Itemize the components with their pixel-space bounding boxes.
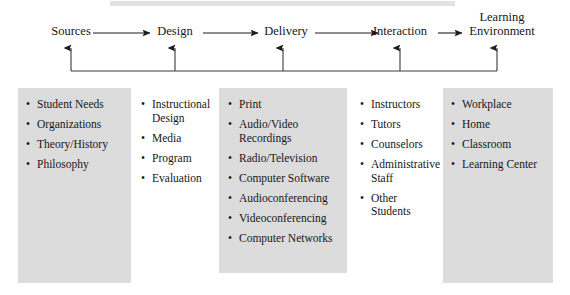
column-learning-environment-list: •Workplace •Home •Classroom •Learning Ce… (443, 88, 553, 172)
list-item-label: Other Students (371, 192, 411, 218)
list-item: •Theory/History (26, 138, 127, 152)
bullet-icon: • (141, 152, 145, 166)
bullet-icon: • (228, 98, 232, 112)
list-item: •Workplace (451, 98, 549, 112)
column-design-list: •Instructional Design •Media •Program •E… (133, 88, 211, 185)
column-sources-list: •Student Needs •Organizations •Theory/Hi… (18, 88, 131, 172)
list-item: •Tutors (360, 118, 438, 132)
stage-label-sources: Sources (26, 25, 116, 39)
list-item: •Student Needs (26, 98, 127, 112)
bullet-icon: • (451, 118, 455, 132)
column-interaction-list: •Instructors •Tutors •Counselors •Admini… (352, 88, 440, 219)
list-item: •Audioconferencing (228, 192, 343, 206)
list-item-label: Audio/Video Recordings (239, 118, 298, 144)
list-item: •Classroom (451, 138, 549, 152)
column-sources: •Student Needs •Organizations •Theory/Hi… (18, 88, 131, 283)
bullet-icon: • (26, 118, 30, 132)
list-item-label: Print (239, 98, 261, 110)
bullet-icon: • (26, 158, 30, 172)
list-item-label: Theory/History (37, 138, 108, 150)
list-item: •Radio/Television (228, 152, 343, 166)
list-item-label: Home (462, 118, 490, 130)
list-item: •Media (141, 132, 209, 146)
list-item: •Computer Software (228, 172, 343, 186)
bullet-icon: • (360, 138, 364, 152)
list-item: •Print (228, 98, 343, 112)
list-item: •Other Students (360, 192, 438, 219)
stage-label-interaction: Interaction (355, 25, 445, 39)
bullet-icon: • (228, 152, 232, 166)
list-item-label: Evaluation (152, 172, 202, 184)
list-item-label: Computer Networks (239, 232, 333, 244)
list-item: •Instructors (360, 98, 438, 112)
bullet-icon: • (141, 172, 145, 186)
bullet-icon: • (451, 138, 455, 152)
feedback-loop (71, 48, 497, 71)
bullet-icon: • (360, 98, 364, 112)
stage-label-delivery: Delivery (241, 25, 331, 39)
list-item: •Audio/Video Recordings (228, 118, 343, 145)
column-design: •Instructional Design •Media •Program •E… (133, 88, 211, 283)
column-interaction: •Instructors •Tutors •Counselors •Admini… (352, 88, 440, 273)
bullet-icon: • (451, 158, 455, 172)
list-item: •Organizations (26, 118, 127, 132)
bullet-icon: • (360, 158, 364, 172)
list-item-label: Organizations (37, 118, 101, 130)
bullet-icon: • (228, 192, 232, 206)
bullet-icon: • (360, 118, 364, 132)
learning-environment-line-1: Learning (479, 10, 524, 24)
list-item-label: Computer Software (239, 172, 329, 184)
list-item-label: Learning Center (462, 158, 537, 170)
list-item-label: Audioconferencing (239, 192, 328, 204)
bullet-icon: • (228, 172, 232, 186)
stage-label-design: Design (130, 25, 220, 39)
bullet-icon: • (228, 212, 232, 226)
list-item-label: Student Needs (37, 98, 104, 110)
bullet-icon: • (141, 132, 145, 146)
list-item: •Home (451, 118, 549, 132)
flow-diagram: Sources Design Delivery Interaction Lear… (0, 0, 570, 295)
list-item-label: Instructional Design (152, 98, 210, 124)
list-item-label: Instructors (371, 98, 420, 110)
list-item: •Counselors (360, 138, 438, 152)
list-item: •Computer Networks (228, 232, 343, 246)
column-delivery: •Print •Audio/Video Recordings •Radio/Te… (219, 88, 347, 273)
bullet-icon: • (451, 98, 455, 112)
bullet-icon: • (26, 98, 30, 112)
learning-environment-line-2: Environment (469, 24, 534, 38)
column-learning-environment: •Workplace •Home •Classroom •Learning Ce… (443, 88, 553, 283)
stage-label-learning-environment: Learning Environment (457, 11, 547, 38)
list-item: •Program (141, 152, 209, 166)
list-item: •Videoconferencing (228, 212, 343, 226)
list-item-label: Program (152, 152, 192, 164)
list-item: •Instructional Design (141, 98, 209, 125)
bullet-icon: • (228, 118, 232, 132)
column-delivery-list: •Print •Audio/Video Recordings •Radio/Te… (219, 88, 347, 245)
bullet-icon: • (26, 138, 30, 152)
list-item-label: Counselors (371, 138, 423, 150)
list-item-label: Workplace (462, 98, 512, 110)
bullet-icon: • (228, 232, 232, 246)
list-item-label: Videoconferencing (239, 212, 326, 224)
list-item-label: Classroom (462, 138, 511, 150)
list-item-label: Radio/Television (239, 152, 317, 164)
bullet-icon: • (141, 98, 145, 112)
list-item-label: Philosophy (37, 158, 89, 170)
component-columns: •Student Needs •Organizations •Theory/Hi… (0, 88, 570, 288)
list-item-label: Tutors (371, 118, 401, 130)
bullet-icon: • (360, 192, 364, 206)
list-item: •Evaluation (141, 172, 209, 186)
list-item: •Philosophy (26, 158, 127, 172)
list-item: •Learning Center (451, 158, 549, 172)
list-item-label: Media (152, 132, 181, 144)
list-item: •Administrative Staff (360, 158, 438, 185)
list-item-label: Administrative Staff (371, 158, 440, 184)
